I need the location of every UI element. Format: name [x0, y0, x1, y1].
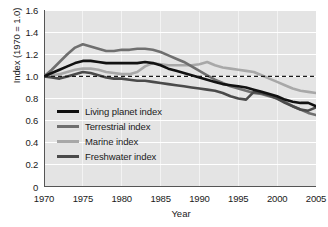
- x-tick-label: 1985: [150, 194, 170, 204]
- y-tick-label: 0.2: [14, 160, 38, 170]
- x-tick-label: 2000: [267, 194, 287, 204]
- legend-item[interactable]: Freshwater index: [57, 149, 162, 164]
- y-tick-label: 1.4: [14, 28, 38, 38]
- legend-color-swatch: [57, 155, 79, 159]
- y-tick-label: 1.0: [14, 72, 38, 82]
- x-axis-tick-labels: 19701975198019851990199520002005: [0, 190, 328, 204]
- y-tick-label: 1.6: [14, 6, 38, 16]
- x-tick-label: 1980: [112, 194, 132, 204]
- legend-item[interactable]: Marine index: [57, 134, 162, 149]
- legend-item[interactable]: Terrestrial index: [57, 119, 162, 134]
- legend-label: Freshwater index: [85, 152, 156, 162]
- x-axis-title: Year: [40, 208, 322, 219]
- chart-figure: Index (1970 = 1.0) 00.20.40.60.81.01.21.…: [0, 0, 328, 227]
- legend-label: Living planet index: [85, 107, 162, 117]
- x-tick-label: 1995: [228, 194, 248, 204]
- legend-item[interactable]: Living planet index: [57, 104, 162, 119]
- y-tick-label: 0.8: [14, 94, 38, 104]
- x-tick-label: 2005: [306, 194, 326, 204]
- legend-color-swatch: [57, 110, 79, 114]
- legend-label: Marine index: [85, 137, 138, 147]
- x-tick-label: 1990: [189, 194, 209, 204]
- y-tick-label: 0.4: [14, 138, 38, 148]
- legend-color-swatch: [57, 125, 79, 129]
- chart-legend: Living planet indexTerrestrial indexMari…: [57, 104, 162, 164]
- y-tick-label: 0.6: [14, 116, 38, 126]
- y-tick-label: 1.2: [14, 50, 38, 60]
- legend-color-swatch: [57, 140, 79, 144]
- x-tick-label: 1970: [34, 194, 54, 204]
- legend-label: Terrestrial index: [85, 122, 150, 132]
- x-tick-label: 1975: [73, 194, 93, 204]
